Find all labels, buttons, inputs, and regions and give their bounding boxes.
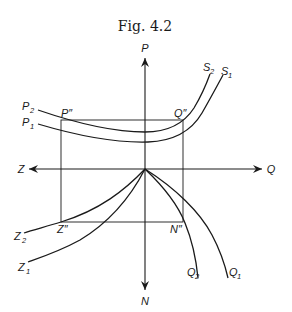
curve-p2-s2 bbox=[38, 74, 210, 132]
label-p-double-prime: P″ bbox=[61, 107, 73, 119]
svg-text:2: 2 bbox=[29, 106, 35, 115]
label-n-double-prime: N″ bbox=[170, 223, 183, 235]
label-s1: S 1 bbox=[221, 65, 232, 80]
svg-text:Z: Z bbox=[17, 261, 26, 273]
axis-label-z: Z bbox=[17, 163, 26, 175]
label-z-double-prime: Z″ bbox=[56, 223, 69, 235]
figure-title: Fig. 4.2 bbox=[118, 18, 172, 34]
label-p2: P 2 bbox=[22, 100, 35, 115]
label-p1: P 1 bbox=[22, 116, 34, 131]
curve-z2 bbox=[24, 169, 145, 233]
svg-text:1: 1 bbox=[26, 267, 30, 276]
axis-label-n: N bbox=[141, 295, 149, 307]
label-q-double-prime: Q″ bbox=[174, 107, 188, 119]
svg-text:2: 2 bbox=[194, 272, 200, 281]
svg-text:2: 2 bbox=[21, 236, 27, 245]
axes bbox=[29, 58, 262, 290]
label-q1: Q 1 bbox=[229, 266, 241, 281]
svg-text:P: P bbox=[22, 116, 30, 128]
svg-text:1: 1 bbox=[228, 71, 232, 80]
svg-text:1: 1 bbox=[237, 272, 241, 281]
svg-text:P: P bbox=[22, 100, 30, 112]
svg-text:2: 2 bbox=[209, 67, 215, 76]
figure-4-2: Fig. 4.2 P N Z Q P 2 P 1 S 2 S 1 Z 2 Z 1 bbox=[0, 0, 292, 312]
curve-q1 bbox=[145, 169, 228, 278]
curve-z1 bbox=[28, 169, 145, 262]
axis-label-q: Q bbox=[267, 163, 276, 175]
label-z1: Z 1 bbox=[17, 261, 30, 276]
label-q2: Q 2 bbox=[187, 266, 200, 281]
construction-rectangle bbox=[61, 120, 183, 222]
svg-text:Z: Z bbox=[13, 230, 22, 242]
axis-label-p: P bbox=[141, 42, 149, 54]
label-s2: S 2 bbox=[203, 61, 215, 76]
svg-text:1: 1 bbox=[30, 122, 34, 131]
